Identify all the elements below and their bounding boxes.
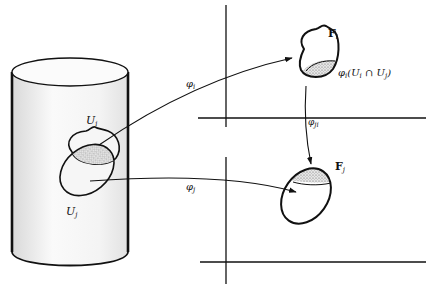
- label-phi-ji: φji: [308, 117, 319, 129]
- label-image-intersection: φi(Ui ∩ Uj): [338, 67, 391, 80]
- manifold-chart-diagram: Ui Uj φi φj φji Fi Fj φi(Ui ∩ Uj): [0, 0, 434, 284]
- label-f-i: Fi: [328, 27, 338, 41]
- label-f-j: Fj: [335, 160, 346, 174]
- label-phi-i: φi: [186, 78, 195, 91]
- label-phi-j: φj: [186, 181, 196, 194]
- region-f-j: [271, 159, 341, 233]
